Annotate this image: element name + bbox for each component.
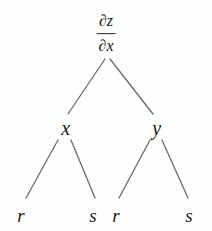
chain-rule-tree-diagram: ∂z ∂x x y r s r s (0, 0, 212, 231)
leaf-node-r-left: r (17, 206, 24, 225)
edge-x-to-s (71, 140, 95, 198)
fraction-numerator: ∂z (96, 12, 115, 32)
leaf-node-s-left: s (89, 206, 96, 225)
leaf-node-r-right: r (112, 206, 119, 225)
edge-y-to-s (162, 140, 188, 198)
fraction-partial-z-partial-x: ∂z ∂x (96, 12, 115, 56)
node-x: x (61, 118, 70, 138)
edge-y-to-r (119, 140, 150, 198)
fraction-bar (96, 33, 115, 34)
leaf-node-s-right: s (185, 206, 192, 225)
node-y: y (152, 118, 161, 138)
root-node-partial-derivative: ∂z ∂x (96, 12, 115, 56)
edge-x-to-r (26, 140, 58, 198)
edge-root-to-y (110, 59, 153, 114)
fraction-denominator: ∂x (96, 36, 115, 56)
edge-root-to-x (68, 59, 105, 114)
